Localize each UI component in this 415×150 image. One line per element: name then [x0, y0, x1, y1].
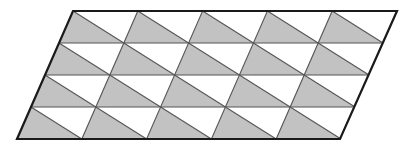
tiled-parallelogram-diagram: Parallelogram subdivided into congruent … — [0, 0, 415, 150]
figure-root: Parallelogram subdivided into congruent … — [0, 0, 415, 150]
